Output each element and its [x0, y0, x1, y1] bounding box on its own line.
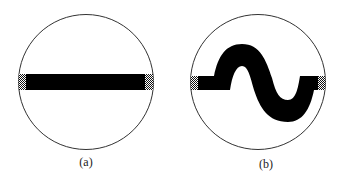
wave-b: [198, 44, 318, 122]
figure-canvas: (a) (b): [0, 0, 346, 180]
bar-a: [26, 74, 145, 90]
wave-b-right-cap: [318, 76, 328, 90]
label-b: (b): [259, 157, 273, 171]
panel-a: (a): [17, 15, 155, 170]
panel-b: (b): [189, 15, 328, 172]
label-a: (a): [79, 155, 92, 169]
